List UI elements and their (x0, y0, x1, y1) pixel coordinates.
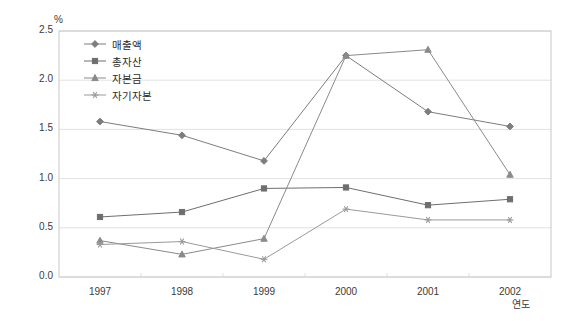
data-point-diamond (179, 132, 186, 139)
data-point-triangle (425, 46, 431, 52)
x-axis-tick-label: 1999 (234, 286, 294, 297)
data-point-diamond (507, 123, 514, 130)
data-point-asterisk (425, 217, 432, 223)
data-point-square (425, 203, 430, 208)
x-axis-tick-label: 2001 (398, 286, 458, 297)
legend-label-총자산[interactable]: 총자산 (112, 54, 142, 69)
legend-label-자기자본[interactable]: 자기자본 (112, 88, 152, 103)
data-point-square (92, 58, 97, 63)
y-axis-tick-label: 1.0 (19, 172, 53, 183)
y-axis-tick-label: 0.0 (19, 270, 53, 281)
data-point-diamond (97, 118, 104, 125)
data-point-square (507, 197, 512, 202)
series-line-1 (100, 187, 510, 217)
data-point-asterisk (92, 92, 99, 98)
series-line-0 (100, 56, 510, 161)
data-point-asterisk (343, 206, 350, 212)
legend-label-매출액[interactable]: 매출액 (112, 37, 142, 52)
data-point-square (261, 186, 266, 191)
data-point-diamond (425, 108, 432, 115)
x-axis-title: 연도 (512, 296, 530, 311)
line-chart: % 연도 0.00.51.01.52.02.519971998199920002… (0, 0, 567, 321)
data-point-square (179, 209, 184, 214)
x-axis-tick-label: 2002 (480, 286, 540, 297)
data-point-asterisk (507, 217, 514, 223)
plot-area (0, 0, 567, 321)
data-point-diamond (92, 41, 99, 48)
y-axis-tick-label: 2.5 (19, 24, 53, 35)
y-axis-tick-label: 2.0 (19, 73, 53, 84)
legend-label-자본금[interactable]: 자본금 (112, 71, 142, 86)
data-point-asterisk (261, 256, 268, 262)
data-point-triangle (97, 237, 103, 243)
y-axis-tick-label: 1.5 (19, 122, 53, 133)
data-point-triangle (261, 235, 267, 241)
y-axis-tick-label: 0.5 (19, 221, 53, 232)
series-line-3 (100, 209, 510, 259)
data-point-asterisk (179, 239, 186, 245)
y-axis-unit-label: % (54, 14, 63, 25)
x-axis-tick-label: 1998 (152, 286, 212, 297)
x-axis-tick-label: 2000 (316, 286, 376, 297)
data-point-triangle (507, 171, 513, 177)
x-axis-tick-label: 1997 (70, 286, 130, 297)
data-point-square (97, 214, 102, 219)
data-point-square (343, 185, 348, 190)
